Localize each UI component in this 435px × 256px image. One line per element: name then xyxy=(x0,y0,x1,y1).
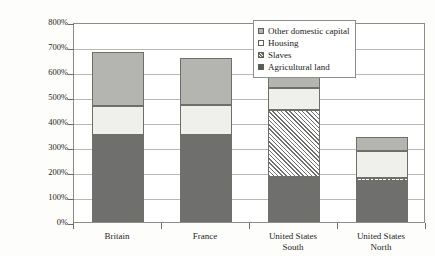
swatch-slaves-icon xyxy=(258,52,264,58)
x-axis-tick xyxy=(73,223,74,229)
legend-item-label: Other domestic capital xyxy=(268,26,349,36)
legend-item-label: Housing xyxy=(268,38,299,48)
bar-chart: Value of capital (% national income) 800… xyxy=(0,0,435,256)
bar-segment xyxy=(92,135,144,222)
y-axis-tick xyxy=(68,199,74,200)
plot-area xyxy=(73,23,425,223)
bar xyxy=(268,70,320,223)
x-axis-tick xyxy=(337,223,338,229)
bar-segment xyxy=(356,151,408,179)
legend: Other domestic capitalHousingSlavesAgric… xyxy=(253,20,356,78)
x-axis-tick xyxy=(249,223,250,229)
legend-item: Housing xyxy=(258,37,349,49)
swatch-agricultural-land-icon xyxy=(258,64,264,70)
legend-item-label: Agricultural land xyxy=(268,62,330,72)
bar xyxy=(356,137,408,222)
bar-segment xyxy=(92,52,144,106)
bar xyxy=(180,58,232,222)
bar xyxy=(92,52,144,222)
y-axis-tick-label: 100% xyxy=(28,193,68,202)
y-axis-tick xyxy=(68,99,74,100)
gridline xyxy=(74,49,424,50)
bar-segment xyxy=(268,177,320,222)
y-axis-tick-label: 200% xyxy=(28,168,68,177)
bar-segment xyxy=(356,137,408,151)
y-axis-tick xyxy=(68,24,74,25)
legend-item-label: Slaves xyxy=(268,50,292,60)
bar-segment xyxy=(356,178,408,181)
bar-segment xyxy=(180,58,232,104)
y-axis-tick-label: 400% xyxy=(28,118,68,127)
bar-segment xyxy=(92,106,144,135)
bar-segment xyxy=(268,88,320,109)
legend-item: Slaves xyxy=(258,49,349,61)
legend-item: Agricultural land xyxy=(258,61,349,73)
y-axis-tick-label: 600% xyxy=(28,68,68,77)
y-axis-tick-label: 0% xyxy=(28,218,68,227)
bar-segment xyxy=(180,105,232,135)
y-axis-tick-label: 700% xyxy=(28,43,68,52)
y-axis-tick xyxy=(68,124,74,125)
y-axis-tick-label: 800% xyxy=(28,18,68,27)
x-axis-category-label: United StatesNorth xyxy=(326,231,435,253)
bar-segment xyxy=(180,135,232,223)
x-axis-tick xyxy=(161,223,162,229)
category-label-line: United States xyxy=(326,231,435,242)
bar-segment xyxy=(356,181,408,222)
legend-item: Other domestic capital xyxy=(258,25,349,37)
swatch-other-domestic-capital-icon xyxy=(258,28,264,34)
y-axis-tick xyxy=(68,149,74,150)
y-axis-tick-label: 500% xyxy=(28,93,68,102)
y-axis-tick xyxy=(68,174,74,175)
swatch-housing-icon xyxy=(258,40,264,46)
x-axis-tick xyxy=(425,223,426,229)
y-axis-tick-label: 300% xyxy=(28,143,68,152)
bar-segment xyxy=(268,110,320,178)
y-axis-tick xyxy=(68,74,74,75)
category-label-line: North xyxy=(326,242,435,253)
y-axis-tick xyxy=(68,49,74,50)
